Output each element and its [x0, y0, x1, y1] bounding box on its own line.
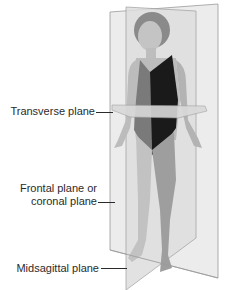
midsagittal-plane-label: Midsagittal plane: [16, 262, 99, 275]
midsagittal-plane-leader: [101, 268, 127, 269]
transverse-plane-leader: [96, 112, 113, 113]
transverse-plane-label: Transverse plane: [10, 105, 95, 118]
head: [138, 21, 162, 51]
anatomical-planes-figure: [0, 0, 231, 290]
frontal-plane-label-line1: Frontal plane or: [20, 182, 97, 195]
frontal-plane-label: Frontal plane or coronal plane: [20, 182, 97, 208]
frontal-plane-leader: [98, 202, 115, 203]
frontal-plane-label-line2: coronal plane: [20, 195, 97, 208]
